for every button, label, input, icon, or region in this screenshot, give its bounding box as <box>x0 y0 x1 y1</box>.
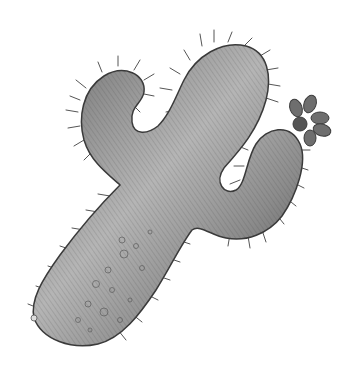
cactus-drawing <box>0 0 355 375</box>
